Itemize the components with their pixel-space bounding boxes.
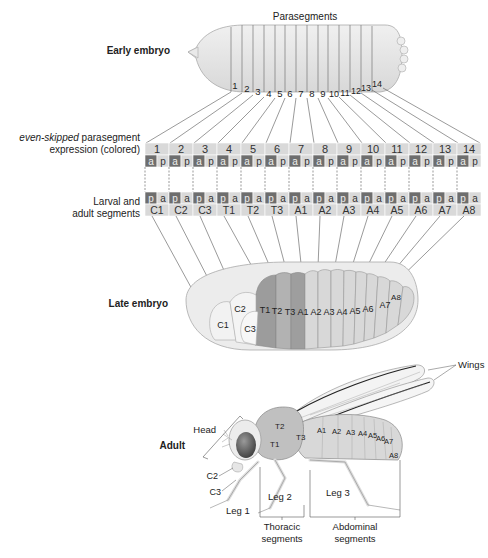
strip-label-line2: expression (colored) <box>49 144 140 155</box>
late-seg: T3 <box>285 307 296 317</box>
late-seg: C2 <box>234 304 246 314</box>
posterior-compartment: p <box>328 156 334 167</box>
ps-num: 11 <box>340 88 349 98</box>
adult-fly: Wings Head C2 C3 T2 T1 T3 A1 A2 A3 A4 A5… <box>193 359 484 544</box>
late-seg: C3 <box>244 324 256 334</box>
posterior-compartment: p <box>172 193 178 204</box>
posterior-compartment: p <box>268 193 274 204</box>
anterior-compartment: a <box>376 193 382 204</box>
ps-num: 9 <box>320 88 325 99</box>
posterior-compartment: p <box>388 193 394 204</box>
t3-label: T3 <box>296 433 306 442</box>
posterior-compartment: p <box>196 193 202 204</box>
posterior-compartment: p <box>472 156 478 167</box>
anterior-compartment: a <box>340 156 346 167</box>
early-embryo-label: Early embryo <box>107 45 170 56</box>
segments-label-line1: Larval and <box>93 196 140 207</box>
anterior-compartment: a <box>412 156 418 167</box>
late-seg: A3 <box>323 307 334 317</box>
late-seg: A6 <box>362 304 373 314</box>
parasegment-number: 8 <box>322 143 328 155</box>
anterior-compartment: a <box>196 156 202 167</box>
segments-label-line2: adult segments <box>72 208 140 219</box>
anterior-compartment: a <box>268 156 274 167</box>
parasegment-number: 11 <box>391 143 402 155</box>
anterior-compartment: a <box>460 156 466 167</box>
segment-label: A2 <box>319 204 332 216</box>
ps-num: 10 <box>329 89 339 99</box>
posterior-compartment: p <box>316 193 322 204</box>
posterior-compartment: p <box>148 193 154 204</box>
adult-abd: A4 <box>358 429 367 438</box>
anterior-compartment: a <box>436 156 442 167</box>
posterior-compartment: p <box>292 193 298 204</box>
anterior-compartment: a <box>160 193 166 204</box>
segment-label: T2 <box>247 204 259 216</box>
segment-label: A3 <box>343 204 356 216</box>
segment-label: C3 <box>198 204 212 216</box>
ps-num: 2 <box>244 83 249 94</box>
posterior-compartment: p <box>232 156 238 167</box>
anterior-compartment: a <box>232 193 238 204</box>
segment-label: A4 <box>367 204 380 216</box>
late-seg: C1 <box>217 320 229 330</box>
posterior-compartment: p <box>244 193 250 204</box>
segment-label: C2 <box>174 204 188 216</box>
ps-num: 8 <box>309 88 314 99</box>
late-seg: A8 <box>391 293 401 302</box>
late-embryo: C1 C2 C3 T1 T2 T3 A1 A2 A3 A4 A5 A6 A7 A… <box>186 262 418 350</box>
anterior-compartment: a <box>148 156 154 167</box>
posterior-compartment: p <box>436 193 442 204</box>
anterior-compartment: a <box>328 193 334 204</box>
posterior-compartment: p <box>460 193 466 204</box>
parasegment-number: 1 <box>154 143 160 155</box>
segmentation-diagram: Parasegments Early embryo <box>0 0 488 558</box>
ps-num: 12 <box>351 86 361 96</box>
adult-label: Adult <box>159 440 185 451</box>
ps-num: 5 <box>277 88 282 99</box>
parasegments-title: Parasegments <box>273 11 337 22</box>
ps-num: 1 <box>232 80 237 91</box>
parasegment-number: 14 <box>463 143 475 155</box>
head-label: Head <box>193 424 216 435</box>
parasegment-strip: 1ap2ap3ap4ap5ap6ap7ap8ap9ap10ap11ap12ap1… <box>145 143 481 192</box>
anterior-compartment: a <box>316 156 322 167</box>
posterior-compartment: p <box>364 193 370 204</box>
t1-label: T1 <box>270 440 280 449</box>
late-seg: A7 <box>379 300 390 310</box>
posterior-compartment: p <box>412 193 418 204</box>
anterior-compartment: a <box>388 156 394 167</box>
posterior-compartment: p <box>184 156 190 167</box>
segment-label: C1 <box>150 204 164 216</box>
strip-label-line1: even-skipped parasegment <box>19 132 140 143</box>
leg1-label: Leg 1 <box>226 505 250 516</box>
early-embryo: 1 2 3 4 5 6 7 8 9 10 11 12 13 14 <box>188 25 408 99</box>
wings-label: Wings <box>458 359 485 370</box>
anterior-compartment: a <box>472 193 478 204</box>
t2-label: T2 <box>275 422 285 431</box>
leg2-label: Leg 2 <box>268 491 292 502</box>
posterior-compartment: p <box>304 156 310 167</box>
ps-num: 6 <box>287 88 292 99</box>
posterior-compartment: p <box>424 156 430 167</box>
posterior-compartment: p <box>376 156 382 167</box>
parasegment-number: 9 <box>346 143 352 155</box>
posterior-compartment: p <box>256 156 262 167</box>
anterior-compartment: a <box>352 193 358 204</box>
anterior-compartment: a <box>208 193 214 204</box>
parasegment-number: 2 <box>178 143 184 155</box>
anterior-compartment: a <box>184 193 190 204</box>
posterior-compartment: p <box>352 156 358 167</box>
parasegment-number: 4 <box>226 143 232 155</box>
parasegment-number: 10 <box>367 143 379 155</box>
c3-label: C3 <box>209 487 221 497</box>
segment-label: A6 <box>415 204 428 216</box>
anterior-compartment: a <box>280 193 286 204</box>
parasegment-number: 13 <box>439 143 451 155</box>
posterior-compartment: p <box>448 156 454 167</box>
c2-label: C2 <box>206 471 218 481</box>
anterior-compartment: a <box>424 193 430 204</box>
adult-abd: A8 <box>389 451 398 460</box>
late-seg: A5 <box>349 306 360 316</box>
adult-abd: A7 <box>384 437 393 446</box>
